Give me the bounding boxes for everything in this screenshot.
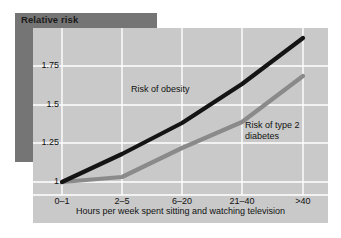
series-annotation-diabetes-line2: diabetes: [245, 131, 279, 141]
xtick-label-over-40: >40: [281, 196, 325, 206]
xtick-label-0-1: 0–1: [40, 196, 84, 206]
ytick-label-125: 1.25: [33, 137, 59, 147]
series-annotation-obesity: Risk of obesity: [131, 84, 190, 95]
ytick-label-1: 1: [33, 176, 59, 186]
relative-risk-chart-figure: Relative risk 1.75 1.5 1.25 1 0–1 2–5 6–…: [0, 0, 341, 238]
series-annotation-diabetes: Risk of type 2 diabetes: [245, 120, 315, 142]
series-annotation-diabetes-line1: Risk of type 2: [245, 120, 300, 130]
xtick-label-6-20: 6–20: [160, 196, 204, 206]
x-axis-title: Hours per week spent sitting and watchin…: [33, 206, 328, 216]
ytick-label-175: 1.75: [33, 60, 59, 70]
ytick-label-15: 1.5: [33, 99, 59, 109]
xtick-label-2-5: 2–5: [100, 196, 144, 206]
xtick-label-21-40: 21–40: [220, 196, 264, 206]
